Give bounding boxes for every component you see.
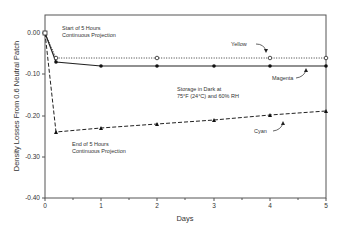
- annotation-storage: Storage in Dark at: [177, 86, 222, 92]
- annotation-start: Start of 5 Hours: [62, 25, 101, 31]
- annotation-end: End of 5 Hours: [72, 141, 109, 147]
- x-tick-label: 5: [324, 202, 328, 209]
- density-loss-chart: 0.00 -0.10 -0.20 -0.30 -0.40 0 1 2 3 4 5…: [0, 0, 342, 226]
- series-cyan-line: [45, 33, 326, 132]
- x-tick-label: 3: [212, 202, 216, 209]
- y-tick-label: -0.20: [25, 112, 40, 119]
- label-magenta: Magenta: [272, 75, 294, 81]
- label-yellow: Yellow: [231, 41, 247, 47]
- annotation-arrows: [256, 44, 306, 131]
- plot-frame: [45, 15, 326, 198]
- start-marker: [43, 31, 47, 35]
- y-axis-label: Density Losses From 0.6 Neutral Patch: [12, 41, 21, 171]
- x-tick-label: 0: [43, 202, 47, 209]
- label-cyan: Cyan: [254, 128, 267, 134]
- y-tick-label: -0.40: [25, 194, 40, 201]
- series-magenta-markers: [54, 60, 328, 68]
- annotation-start: Continuous Projection: [62, 32, 116, 38]
- y-tick-label: 0.00: [27, 29, 40, 36]
- annotation-storage: 75°F (24°C) and 60% RH: [177, 93, 239, 99]
- x-axis-label: Days: [176, 214, 193, 223]
- annotation-end: Continuous Projection: [72, 148, 126, 154]
- y-tick-label: -0.10: [25, 70, 40, 77]
- x-tick-label: 2: [155, 202, 159, 209]
- x-tick-label: 1: [99, 202, 103, 209]
- y-tick-label: -0.30: [25, 153, 40, 160]
- x-tick-label: 4: [268, 202, 272, 209]
